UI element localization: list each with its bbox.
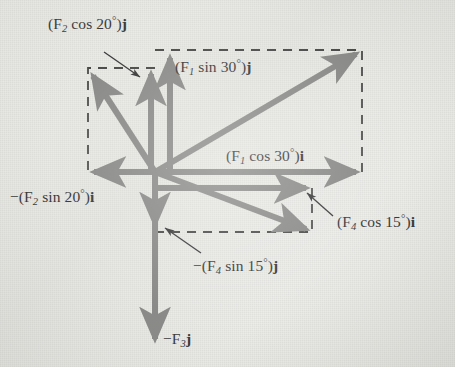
leader-line-f4-cos — [307, 193, 333, 216]
label-neg-f4-sin-15j: −(F4 sin 15°)j — [193, 256, 278, 276]
leader-line-f2-cos — [104, 52, 140, 77]
label-f1-sin-30j: (F1 sin 30°)j — [175, 57, 251, 77]
vector-f2-resultant — [93, 76, 155, 172]
vector-diagram-figure: (F2 cos 20°)j (F1 sin 30°)j (F1 cos 30°)… — [0, 0, 455, 367]
label-f1-cos-30i: (F1 cos 30°)i — [226, 146, 304, 166]
label-f2-cos-20j: (F2 cos 20°)j — [48, 14, 127, 34]
diagram-canvas — [0, 0, 455, 367]
vector-f4-resultant — [155, 172, 306, 229]
label-neg-f3j: −F3j — [163, 330, 191, 349]
label-neg-f2-sin-20i: −(F2 sin 20°)i — [10, 187, 94, 207]
label-f4-cos-15i: (F4 cos 15°)i — [337, 212, 415, 232]
